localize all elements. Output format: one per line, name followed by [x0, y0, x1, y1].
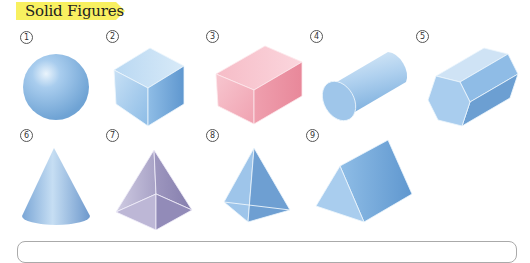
figure-cylinder: 4 [308, 28, 414, 128]
section-title: Solid Figures [25, 2, 124, 20]
figure-cube: 2 [104, 28, 204, 128]
figure-triangular-prism: 9 [304, 126, 424, 230]
cube-icon [104, 28, 204, 128]
triangular-pyramid-icon [204, 126, 304, 230]
figure-rectangular-prism: 3 [204, 28, 308, 128]
figure-square-pyramid: 7 [104, 126, 204, 230]
cone-icon [14, 126, 104, 230]
answer-box [17, 241, 517, 263]
sphere-icon [14, 28, 104, 128]
hexagonal-prism-icon [414, 28, 530, 128]
square-pyramid-icon [104, 126, 204, 230]
cylinder-icon [308, 28, 414, 128]
figure-cone: 6 [14, 126, 104, 230]
triangular-prism-icon [304, 126, 424, 230]
figure-sphere: 1 [14, 28, 104, 128]
rectangular-prism-icon [204, 28, 308, 128]
figure-triangular-pyramid: 8 [204, 126, 304, 230]
section-title-banner: Solid Figures [16, 2, 124, 20]
figure-hexagonal-prism: 5 [414, 28, 530, 128]
